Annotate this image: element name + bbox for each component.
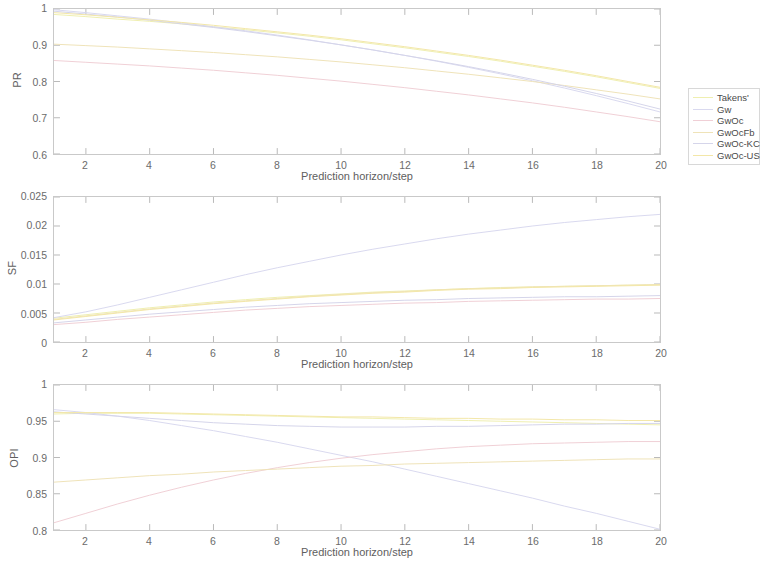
plot-area-opi xyxy=(53,384,661,531)
legend-item: Takens' xyxy=(691,92,757,104)
y-tick-label: 0.7 xyxy=(1,112,47,124)
y-tick-label: 0.025 xyxy=(1,190,47,202)
x-tick-label: 2 xyxy=(82,347,88,359)
y-tick-label: 0.85 xyxy=(1,488,47,500)
x-tick-label: 12 xyxy=(399,535,411,547)
x-tick-label: 14 xyxy=(463,535,475,547)
x-tick-label: 14 xyxy=(463,347,475,359)
x-tick-label: 20 xyxy=(655,535,667,547)
x-tick-label: 18 xyxy=(591,535,603,547)
legend-item-label: Gw xyxy=(717,104,731,116)
x-tick-label: 12 xyxy=(399,347,411,359)
y-tick-label: 0.9 xyxy=(1,452,47,464)
legend: Takens'GwGwOcGwOcFbGwOc-KCGwOc-US xyxy=(688,88,760,165)
legend-item-label: GwOc xyxy=(717,115,743,127)
legend-color-swatch xyxy=(693,109,713,110)
series-line xyxy=(54,442,660,523)
y-tick-label: 0 xyxy=(1,337,47,349)
y-tick-label: 0.015 xyxy=(1,249,47,261)
series-line xyxy=(54,459,660,482)
x-tick-label: 10 xyxy=(335,535,347,547)
series-line xyxy=(54,410,660,530)
plot-area-sf xyxy=(53,196,661,343)
legend-item-label: Takens' xyxy=(717,92,749,104)
x-tick-label: 4 xyxy=(146,159,152,171)
figure-canvas: PR Prediction horizon/step SF Prediction… xyxy=(0,0,762,564)
y-tick-label: 1 xyxy=(1,2,47,14)
x-tick-label: 14 xyxy=(463,159,475,171)
series-line xyxy=(54,13,660,88)
x-tick-label: 16 xyxy=(527,535,539,547)
series-line xyxy=(54,285,660,319)
x-tick-label: 10 xyxy=(335,347,347,359)
series-line xyxy=(54,14,660,88)
plot-lines-pr xyxy=(54,9,660,154)
x-tick-label: 16 xyxy=(527,159,539,171)
x-tick-label: 2 xyxy=(82,535,88,547)
plot-area-pr xyxy=(53,8,661,155)
legend-item: GwOc-US xyxy=(691,150,757,162)
y-tick-label: 0.01 xyxy=(1,278,47,290)
x-tick-label: 20 xyxy=(655,347,667,359)
y-tick-label: 0.8 xyxy=(1,525,47,537)
x-tick-label: 8 xyxy=(274,347,280,359)
legend-color-swatch xyxy=(693,143,713,144)
legend-item: GwOc-KC xyxy=(691,138,757,150)
x-tick-label: 10 xyxy=(335,159,347,171)
x-axis-label-opi: Prediction horizon/step xyxy=(53,546,661,558)
y-tick-label: 0.9 xyxy=(1,39,47,51)
legend-item: GwOc xyxy=(691,115,757,127)
x-tick-label: 4 xyxy=(146,347,152,359)
x-tick-label: 6 xyxy=(210,159,216,171)
x-tick-label: 18 xyxy=(591,159,603,171)
x-tick-label: 4 xyxy=(146,535,152,547)
y-tick-label: 1 xyxy=(1,378,47,390)
y-tick-label: 0.95 xyxy=(1,415,47,427)
y-tick-label: 0.8 xyxy=(1,76,47,88)
legend-item-label: GwOc-KC xyxy=(717,138,760,150)
x-tick-label: 12 xyxy=(399,159,411,171)
series-line xyxy=(54,60,660,121)
y-tick-label: 0.6 xyxy=(1,149,47,161)
plot-lines-opi xyxy=(54,385,660,530)
x-tick-label: 2 xyxy=(82,159,88,171)
legend-color-swatch xyxy=(693,155,713,156)
legend-item-label: GwOc-US xyxy=(717,150,760,162)
x-axis-label-sf: Prediction horizon/step xyxy=(53,358,661,370)
x-tick-label: 16 xyxy=(527,347,539,359)
legend-color-swatch xyxy=(693,120,713,121)
x-tick-label: 20 xyxy=(655,159,667,171)
legend-item: GwOcFb xyxy=(691,127,757,139)
x-tick-label: 18 xyxy=(591,347,603,359)
series-line xyxy=(54,11,660,109)
legend-color-swatch xyxy=(693,132,713,133)
x-axis-label-pr: Prediction horizon/step xyxy=(53,170,661,182)
x-tick-label: 6 xyxy=(210,535,216,547)
y-tick-label: 0.005 xyxy=(1,308,47,320)
legend-item-label: GwOcFb xyxy=(717,127,754,139)
y-tick-label: 0.02 xyxy=(1,219,47,231)
legend-color-swatch xyxy=(693,97,713,98)
x-tick-label: 6 xyxy=(210,347,216,359)
x-tick-label: 8 xyxy=(274,159,280,171)
plot-lines-sf xyxy=(54,197,660,342)
series-line xyxy=(54,413,660,425)
series-line xyxy=(54,10,660,112)
x-tick-label: 8 xyxy=(274,535,280,547)
legend-item: Gw xyxy=(691,104,757,116)
